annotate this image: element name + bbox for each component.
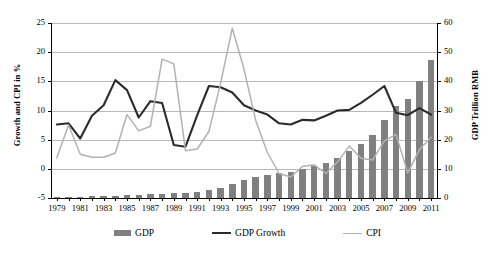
legend-label-cpi: CPI [366, 228, 381, 238]
x-axis-tick-mark [361, 198, 362, 201]
x-axis-tick-mark [162, 198, 163, 201]
gridline [51, 169, 437, 170]
y-axis-right-tick-mark [438, 111, 441, 112]
y-axis-left-tick-label: 0 [25, 164, 45, 173]
y-axis-left-tick-mark [48, 52, 51, 53]
legend-label-gdp-growth: GDP Growth [235, 228, 285, 238]
gridline [51, 52, 437, 53]
gdp-bar [428, 60, 434, 198]
y-axis-right-tick-mark [438, 52, 441, 53]
gdp-bar [393, 106, 399, 198]
x-axis-tick-mark [127, 198, 128, 201]
x-axis-tick-mark [104, 198, 105, 201]
x-axis-tick-mark [186, 198, 187, 201]
x-axis-tick-mark [408, 198, 409, 201]
y-axis-left-tick-mark [48, 111, 51, 112]
gdp-bar [369, 135, 375, 198]
x-axis-tick-mark [115, 198, 116, 201]
y-axis-right-tick-label: 40 [444, 76, 466, 85]
y-axis-left-tick-label: 25 [25, 18, 45, 27]
gdp-bar [416, 81, 422, 198]
x-axis-tick-mark [338, 198, 339, 201]
gdp-bar [288, 172, 294, 198]
legend-item-cpi: CPI [343, 228, 381, 238]
legend-item-gdp-growth: GDP Growth [212, 228, 285, 238]
x-axis-tick-mark [174, 198, 175, 201]
y-axis-left-title: Growth and CPI in % [12, 55, 22, 155]
gridline [51, 111, 437, 112]
x-axis-tick-mark [256, 198, 257, 201]
x-axis-tick-mark [150, 198, 151, 201]
y-axis-right-tick-label: 0 [444, 193, 466, 202]
axis-line-left [51, 23, 52, 199]
gdp-bar [334, 158, 340, 198]
x-axis-tick-mark [139, 198, 140, 201]
y-axis-right-tick-mark [438, 198, 441, 199]
gdp-growth-line-swatch-icon [212, 232, 231, 234]
gridline [51, 23, 437, 24]
x-axis-tick-mark [302, 198, 303, 201]
x-axis-tick-mark [396, 198, 397, 201]
y-axis-right-tick-label: 60 [444, 18, 466, 27]
gdp-bar [346, 151, 352, 198]
legend-item-gdp: GDP [114, 228, 154, 238]
y-axis-right-tick-mark [438, 169, 441, 170]
x-axis-tick-mark [267, 198, 268, 201]
x-axis-tick-mark [92, 198, 93, 201]
x-axis-tick-mark [244, 198, 245, 201]
x-axis-tick-mark [221, 198, 222, 201]
gridline [51, 81, 437, 82]
gdp-bar [229, 184, 235, 198]
y-axis-right-tick-label: 50 [444, 47, 466, 56]
y-axis-right-tick-mark [438, 140, 441, 141]
y-axis-left-tick-label: -5 [25, 193, 45, 202]
x-axis-tick-mark [69, 198, 70, 201]
gdp-bar [217, 188, 223, 198]
x-axis-tick-mark [279, 198, 280, 201]
y-axis-right-tick-mark [438, 23, 441, 24]
x-axis-tick-mark [209, 198, 210, 201]
gdp-bar [381, 120, 387, 198]
x-axis-tick-mark [384, 198, 385, 201]
gdp-bar [358, 144, 364, 198]
cpi-line-swatch-icon [343, 233, 362, 234]
y-axis-right-tick-mark [438, 81, 441, 82]
y-axis-left-tick-label: 15 [25, 76, 45, 85]
y-axis-left-tick-mark [48, 140, 51, 141]
x-axis-tick-mark [197, 198, 198, 201]
legend-label-gdp: GDP [135, 228, 154, 238]
gdp-bar [241, 180, 247, 198]
x-axis-tick-mark [419, 198, 420, 201]
y-axis-left-tick-mark [48, 81, 51, 82]
x-axis-tick-mark [57, 198, 58, 201]
y-axis-left-tick-mark [48, 23, 51, 24]
y-axis-right-tick-label: 20 [444, 135, 466, 144]
gdp-bar-swatch-icon [114, 230, 131, 236]
y-axis-left-tick-label: 20 [25, 47, 45, 56]
x-axis-tick-mark [373, 198, 374, 201]
x-axis-tick-mark [291, 198, 292, 201]
x-axis-tick-mark [326, 198, 327, 201]
x-axis-tick-mark [80, 198, 81, 201]
x-axis-tick-label: 2011 [416, 203, 446, 213]
gdp-bar [311, 166, 317, 198]
x-axis-tick-mark [232, 198, 233, 201]
x-axis-tick-mark [349, 198, 350, 201]
gdp-bar [405, 99, 411, 198]
gdp-bar [323, 163, 329, 198]
y-axis-right-tick-label: 30 [444, 106, 466, 115]
gdp-bar [276, 173, 282, 198]
gridline [51, 140, 437, 141]
gdp-bar [206, 190, 212, 198]
x-axis-tick-mark [431, 198, 432, 201]
gdp-bar [264, 175, 270, 198]
chart-container: Growth and CPI in % GDP Trillion RMB GDP… [0, 0, 495, 254]
gdp-bar [252, 177, 258, 198]
y-axis-left-tick-label: 10 [25, 106, 45, 115]
y-axis-right-title: GDP Trillion RMB [470, 55, 480, 155]
y-axis-left-tick-mark [48, 198, 51, 199]
y-axis-left-tick-label: 5 [25, 135, 45, 144]
chart-legend: GDP GDP Growth CPI [0, 228, 495, 238]
x-axis-tick-mark [314, 198, 315, 201]
y-axis-right-tick-label: 10 [444, 164, 466, 173]
